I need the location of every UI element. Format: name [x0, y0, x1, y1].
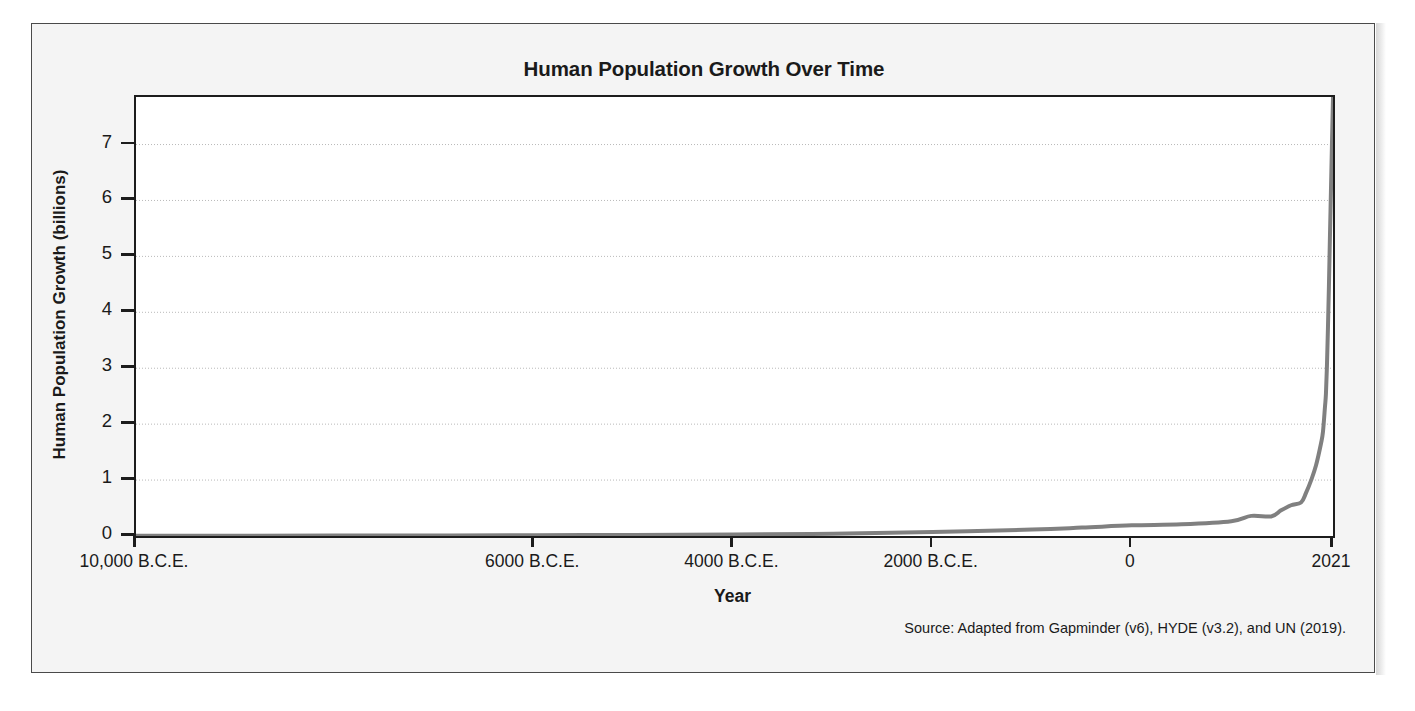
x-tick-label: 10,000 B.C.E.: [80, 551, 189, 572]
y-tick-mark: [121, 477, 134, 480]
y-tick-label: 0: [72, 524, 112, 543]
y-tick-mark: [121, 421, 134, 424]
gridlines-group: [136, 145, 1333, 481]
figure-frame: Human Population Growth Over Time Human …: [31, 23, 1375, 673]
y-tick-label: 1: [72, 468, 112, 487]
y-tick-mark: [121, 309, 134, 312]
x-tick-label: 2021: [1312, 551, 1351, 572]
x-axis-label: Year: [134, 586, 1331, 607]
y-tick-label: 4: [72, 300, 112, 319]
source-note: Source: Adapted from Gapminder (v6), HYD…: [904, 620, 1346, 636]
y-tick-label: 3: [72, 356, 112, 375]
page-canvas: Human Population Growth Over Time Human …: [0, 0, 1415, 711]
x-tick-mark: [133, 536, 136, 547]
x-tick-mark: [1330, 536, 1333, 547]
x-tick-label: 4000 B.C.E.: [684, 551, 778, 572]
y-tick-label: 2: [72, 412, 112, 431]
y-tick-label: 7: [72, 133, 112, 152]
x-tick-mark: [930, 536, 933, 547]
x-tick-label: 2000 B.C.E.: [883, 551, 977, 572]
y-tick-label: 5: [72, 244, 112, 263]
plot-svg: [136, 97, 1333, 536]
chart-title: Human Population Growth Over Time: [32, 57, 1376, 81]
plot-area: [134, 95, 1335, 538]
y-axis-label: Human Population Growth (billions): [50, 95, 70, 534]
population-curve: [136, 98, 1333, 536]
figure-shadow: [1376, 23, 1386, 675]
y-tick-mark: [121, 197, 134, 200]
x-tick-mark: [1129, 536, 1132, 547]
x-tick-label: 6000 B.C.E.: [485, 551, 579, 572]
x-tick-mark: [531, 536, 534, 547]
x-tick-mark: [730, 536, 733, 547]
y-tick-mark: [121, 253, 134, 256]
x-tick-label: 0: [1125, 551, 1135, 572]
y-tick-label: 6: [72, 188, 112, 207]
y-tick-mark: [121, 142, 134, 145]
y-tick-mark: [121, 365, 134, 368]
